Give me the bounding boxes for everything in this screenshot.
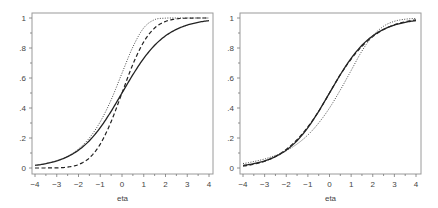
- x-tick-label: 4: [414, 180, 419, 189]
- y-tick-label: .2: [227, 134, 234, 143]
- x-tick-label: −2: [74, 180, 84, 189]
- x-tick-label: −4: [238, 180, 248, 189]
- x-tick-label: −2: [282, 180, 292, 189]
- y-tick-label: 1: [22, 14, 27, 23]
- x-tick-label: 2: [163, 180, 168, 189]
- y-tick-label: 0: [230, 164, 235, 173]
- left-panel: 0.2.4.6.81−4−3−2−101234eta: [19, 13, 213, 203]
- y-tick-label: 1: [230, 14, 235, 23]
- y-axis: 0.2.4.6.81: [227, 14, 240, 173]
- x-tick-label: −1: [303, 180, 313, 189]
- chart-figure: 0.2.4.6.81−4−3−2−101234eta 0.2.4.6.81−4−…: [0, 0, 438, 208]
- plot-frame: [32, 13, 213, 174]
- y-tick-label: .8: [227, 44, 234, 53]
- plot-frame: [240, 13, 421, 174]
- x-tick-label: −3: [260, 180, 270, 189]
- y-tick-label: .8: [19, 44, 26, 53]
- x-axis: −4−3−2−101234: [238, 174, 418, 189]
- x-tick-label: −1: [96, 180, 106, 189]
- y-tick-label: .4: [227, 104, 234, 113]
- x-tick-label: −3: [52, 180, 62, 189]
- y-tick-label: 0: [22, 164, 27, 173]
- series-line-dotted: [243, 18, 416, 163]
- x-tick-label: 3: [185, 180, 190, 189]
- x-axis-title: eta: [325, 194, 337, 203]
- x-tick-label: 1: [142, 180, 147, 189]
- right-panel: 0.2.4.6.81−4−3−2−101234eta: [227, 13, 421, 203]
- x-tick-label: 2: [371, 180, 376, 189]
- x-tick-label: 4: [207, 180, 212, 189]
- y-tick-label: .6: [19, 74, 26, 83]
- x-tick-label: 0: [327, 180, 332, 189]
- y-tick-label: .6: [227, 74, 234, 83]
- x-axis: −4−3−2−101234: [30, 174, 211, 189]
- x-tick-label: −4: [30, 180, 40, 189]
- y-tick-label: .4: [19, 104, 26, 113]
- y-tick-label: .2: [19, 134, 26, 143]
- y-axis: 0.2.4.6.81: [19, 14, 32, 173]
- series-line-dashed: [243, 20, 416, 166]
- x-tick-label: 3: [392, 180, 397, 189]
- x-axis-title: eta: [117, 194, 129, 203]
- x-tick-label: 1: [349, 180, 354, 189]
- series-line-solid: [35, 21, 209, 166]
- x-tick-label: 0: [120, 180, 125, 189]
